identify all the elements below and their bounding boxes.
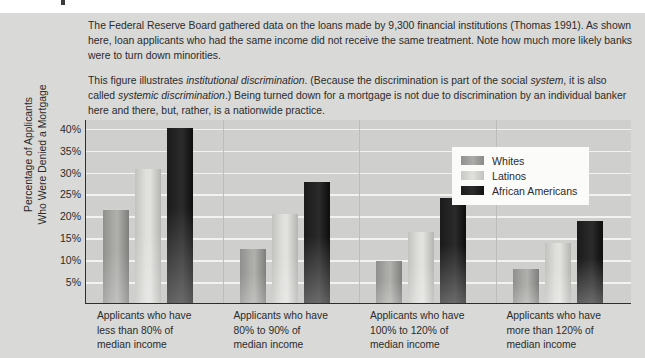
y-axis-tick-labels: 40%35%30%25%20%15%10%5% [36, 120, 81, 304]
legend-swatch-icon [461, 171, 484, 180]
bar-african-americans-group-1 [167, 128, 193, 303]
y-axis-tick-label: 20% [41, 210, 81, 222]
bar-gradient-overlay [545, 270, 571, 303]
legend-item-african-americans: African Americans [461, 183, 577, 198]
x-axis-category-label-3: Applicants who have 100% to 120% of medi… [370, 309, 464, 353]
legend-item-latinos: Latinos [461, 168, 577, 183]
bar-gradient-overlay [304, 236, 330, 303]
bar-gradient-overlay [167, 207, 193, 303]
bar-gradient-overlay [408, 264, 434, 303]
bar-whites-group-1 [103, 210, 129, 303]
group-separator [359, 120, 360, 303]
y-axis-tick-label: 40% [41, 123, 81, 135]
x-axis-category-labels: Applicants who have less than 80% of med… [85, 309, 631, 358]
bar-whites-group-4 [513, 269, 539, 303]
caption-emphasis-system: system [530, 75, 563, 86]
figure-caption: The Federal Reserve Board gathered data … [88, 18, 636, 118]
bar-latinos-group-3 [408, 232, 434, 303]
x-axis-category-label-2: Applicants who have 80% to 90% of median… [234, 309, 328, 353]
legend-label: Whites [492, 155, 524, 167]
legend-swatch-icon [461, 186, 484, 195]
group-separator [223, 120, 224, 303]
legend-item-whites: Whites [461, 153, 577, 168]
caption-p2-text-b: . (Because the discrimination is part of… [305, 75, 531, 86]
bar-gradient-overlay [240, 273, 266, 303]
y-axis-tick-label: 35% [41, 145, 81, 157]
caption-p2-text-a: This figure illustrates [88, 75, 186, 86]
bar-gradient-overlay [103, 252, 129, 303]
bar-whites-group-3 [376, 261, 402, 303]
bar-gradient-overlay [577, 258, 603, 303]
bar-whites-group-2 [240, 249, 266, 303]
y-axis-tick-label: 5% [41, 276, 81, 288]
bar-african-americans-group-3 [440, 198, 466, 303]
y-axis-tick-label: 10% [41, 254, 81, 266]
bar-gradient-overlay [513, 284, 539, 303]
caption-paragraph-1: The Federal Reserve Board gathered data … [88, 18, 636, 64]
bar-gradient-overlay [135, 229, 161, 303]
caption-emphasis-institutional-discrimination: institutional discrimination [186, 75, 304, 86]
bar-gradient-overlay [272, 254, 298, 303]
caption-paragraph-2: This figure illustrates institutional di… [88, 73, 636, 119]
bar-gradient-overlay [376, 280, 402, 303]
caption-emphasis-systemic-discrimination: systemic discrimination [118, 90, 225, 101]
y-axis-tick-label: 25% [41, 188, 81, 200]
bar-latinos-group-2 [272, 214, 298, 303]
figure-panel: The Federal Reserve Board gathered data … [0, 13, 645, 358]
y-axis-tick-label: 15% [41, 232, 81, 244]
legend-swatch-icon [461, 156, 484, 165]
cropped-text-artifact [61, 0, 65, 5]
bar-latinos-group-4 [545, 243, 571, 303]
legend-label: Latinos [492, 170, 526, 182]
y-axis-tick-label: 30% [41, 167, 81, 179]
bar-gradient-overlay [440, 245, 466, 303]
bar-african-americans-group-2 [304, 182, 330, 303]
chart-legend: WhitesLatinosAfrican Americans [452, 147, 589, 205]
legend-label: African Americans [492, 185, 577, 197]
bar-african-americans-group-4 [577, 221, 603, 303]
x-axis-category-label-1: Applicants who have less than 80% of med… [97, 309, 191, 353]
bar-latinos-group-1 [135, 169, 161, 303]
x-axis-category-label-4: Applicants who have more than 120% of me… [507, 309, 601, 353]
